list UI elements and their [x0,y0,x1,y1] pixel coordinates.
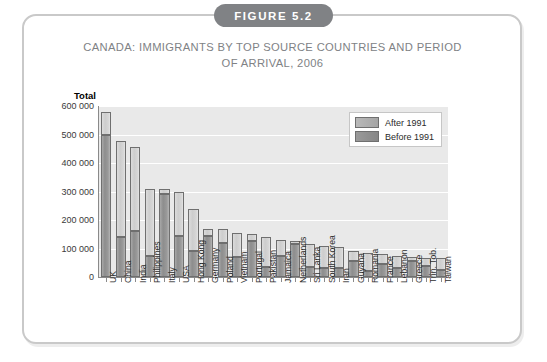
x-tickmark [164,278,165,282]
x-label-china: China [123,261,133,283]
x-label-south-korea: South Korea [327,235,337,283]
x-tickmark [339,278,340,282]
x-label-italy: Italy [167,267,177,283]
x-label-trin-tob-: Trin. Tob. [428,248,438,283]
x-tickmark [383,278,384,282]
x-tickmark [252,278,253,282]
x-label-lebanon: Lebanon [399,250,409,283]
bar-china [116,141,126,277]
y-tick-label: 500 000 [36,130,94,140]
x-label-poland: Poland [225,256,235,283]
figure-container: FIGURE 5.2 CANADA: IMMIGRANTS BY TOP SOU… [0,0,547,362]
x-label-taiwan: Taiwan [443,256,453,283]
bar-india [130,147,140,277]
x-label-india: India [138,264,148,283]
x-label-uk: UK [108,271,118,283]
gridline [99,163,448,164]
figure-title-line-1: CANADA: IMMIGRANTS BY TOP SOURCE COUNTRI… [60,40,485,56]
x-label-hong-kong: Hong Kong [196,240,206,283]
x-label-france: France [385,256,395,283]
x-tickmark [194,278,195,282]
bar-segment-after-1991 [101,112,111,135]
y-tick-label: 300 000 [36,187,94,197]
x-tickmark [412,278,413,282]
x-label-netherlands: Netherlands [298,237,308,283]
legend-label: After 1991 [385,118,427,128]
x-tickmark [310,278,311,282]
x-label-pakistan: Pakistan [268,250,278,283]
y-tick-label: 400 000 [36,158,94,168]
x-label-jamaica: Jamaica [283,251,293,283]
x-label-germany: Germany [210,248,220,283]
bar-segment-after-1991 [218,229,228,243]
y-tick-label: 0 [36,272,94,282]
x-axis-category-labels: UKChinaIndiaPhilippinesItalyUSAHong Kong… [98,283,447,353]
x-label-sri-lanka: Sri Lanka [312,247,322,283]
legend-label: Before 1991 [385,132,434,142]
x-tickmark [397,278,398,282]
chart-legend: After 1991Before 1991 [349,112,442,147]
bar-segment-after-1991 [247,234,257,241]
x-tickmark [121,278,122,282]
x-tickmark [237,278,238,282]
legend-item: After 1991 [355,117,434,128]
x-tickmark [441,278,442,282]
bar-segment-before-1991 [101,135,111,278]
y-tick-label: 100 000 [36,244,94,254]
figure-number-badge: FIGURE 5.2 [214,4,333,27]
x-label-romania: Romania [370,249,380,283]
legend-swatch-icon [355,117,379,128]
x-label-greece: Greece [414,255,424,283]
gridline [99,106,448,107]
x-tickmark [281,278,282,282]
x-tickmark [353,278,354,282]
x-tickmark [179,278,180,282]
x-label-philippines: Philippines [152,241,162,283]
x-tickmark [295,278,296,282]
x-tickmark [223,278,224,282]
y-axis-tick-labels: 0100 000200 000300 000400 000500 000600 … [34,106,94,277]
legend-item: Before 1991 [355,131,434,142]
x-label-portugal: Portugal [254,251,264,283]
y-axis-title: Total [74,90,96,101]
x-tickmark [324,278,325,282]
x-tickmark [135,278,136,282]
figure-title: CANADA: IMMIGRANTS BY TOP SOURCE COUNTRI… [60,40,485,71]
y-tick-label: 600 000 [36,101,94,111]
bar-segment-after-1991 [203,229,213,236]
x-tickmark [368,278,369,282]
bar-segment-after-1991 [174,192,184,236]
y-tick-label: 200 000 [36,215,94,225]
x-tickmark [150,278,151,282]
bar-uk [101,112,111,277]
x-label-iran: Iran [341,268,351,283]
bar-segment-after-1991 [159,189,169,195]
bar-segment-after-1991 [130,147,140,231]
legend-swatch-icon [355,131,379,142]
figure-title-line-2: OF ARRIVAL, 2006 [60,56,485,72]
bar-segment-after-1991 [116,141,126,237]
x-tickmark [208,278,209,282]
x-label-usa: USA [181,265,191,283]
x-label-vietnam: Vietnam [239,252,249,283]
x-label-guyana: Guyana [356,253,366,283]
